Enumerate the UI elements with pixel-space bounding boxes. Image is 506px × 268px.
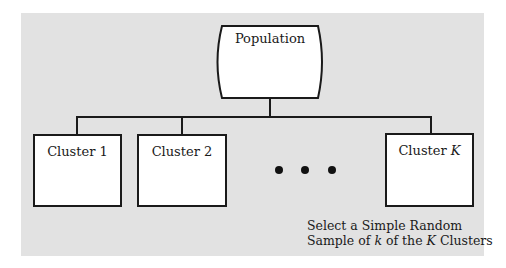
cluster-1-box: Cluster 1 (33, 134, 122, 207)
ellipsis-dot-3 (328, 166, 336, 174)
ellipsis-dot-2 (301, 166, 309, 174)
population-label: Population (222, 31, 318, 46)
cluster-2-label: Cluster 2 (139, 144, 225, 159)
caption-line-2: Sample of k of the K Clusters (307, 233, 493, 248)
cluster-k-box: Cluster K (385, 133, 474, 207)
cluster-1-label: Cluster 1 (35, 144, 120, 159)
caption: Select a Simple Random Sample of k of th… (307, 218, 493, 248)
cluster-2-box: Cluster 2 (137, 134, 227, 207)
caption-line-1: Select a Simple Random (307, 218, 493, 233)
cluster-k-label: Cluster K (387, 143, 472, 158)
ellipsis-dot-1 (275, 166, 283, 174)
